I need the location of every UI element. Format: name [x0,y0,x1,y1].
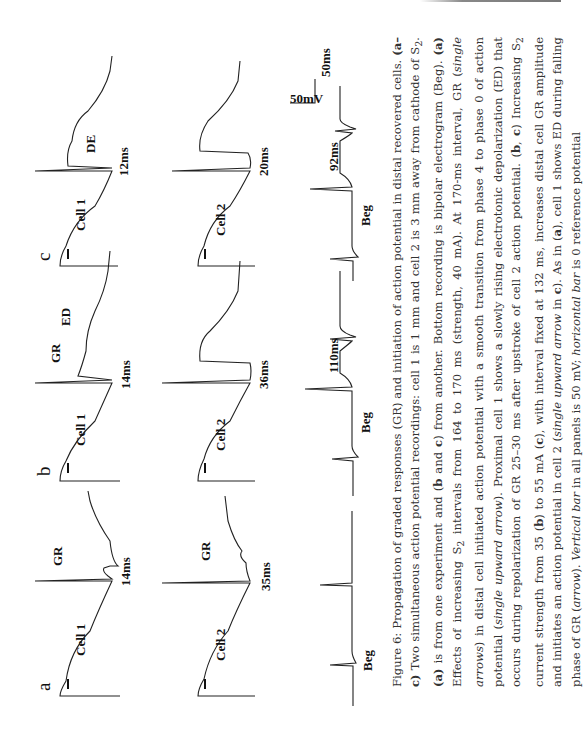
caption-text: and [431,447,445,479]
panel-b-beg-trace [305,271,358,496]
caption-ref: c [431,440,445,447]
panel-c-beg-label: Beg [358,205,373,226]
caption-text: ). [569,561,583,573]
panel-a-label: a [33,682,54,691]
panel-a-beg-trace [320,511,356,706]
caption-ref: a [550,229,564,237]
caption-text: ) Increasing S [509,43,523,129]
panel-b-label: b [33,467,54,477]
panel-b-cell1-ed: ED [58,308,73,326]
caption-ref: b [509,145,523,153]
caption-ref: (a) [431,37,445,55]
caption-text: ) to 55 mA ( [532,445,546,519]
panel-a-cell1-trace [35,491,120,696]
panel-a-cell2-trace [162,496,255,696]
panel-a-cell2-label: Cell 2 [213,629,228,661]
panel-c-cell1-label: Cell 1 [73,199,88,231]
caption-text: , [509,136,523,145]
caption-text: Propagation of graded responses (GR) and… [390,56,404,633]
panel-b-cell2-label: Cell 2 [213,419,228,451]
panel-b-beg-label: Beg [358,412,373,433]
caption-emphasis: arrow [569,573,583,608]
figure-caption: Figure 6: Propagation of graded response… [388,37,585,687]
caption-ref: c [509,129,523,136]
panel-b-cell2-trace [162,261,255,481]
caption-text: Two simultaneous action potential record… [408,47,422,675]
caption-ref: (a) [431,669,445,687]
caption-subscript: 2 [414,41,425,47]
caption-prefix: Figure 6: [390,633,404,687]
panel-a-cell1-label: Cell 1 [73,624,88,656]
caption-ref: b [431,479,445,487]
caption-text: intervals from 164 to 170 ms (strength, … [450,72,464,540]
caption-emphasis: Vertical bar [569,492,583,561]
panel-b-cell2-interval: 36ms [256,360,271,389]
caption-emphasis: horizontal bar [569,273,583,356]
panel-b-beg-interval: 110ms [326,338,341,373]
caption-text: in [550,294,564,314]
caption-text: . [408,37,422,41]
figure-6-traces: a Cell 1 GR 14ms Cell 2 GR 35ms Beg b Ce… [0,0,380,751]
caption-ref: c [532,438,546,445]
scale-bar-horizontal-label: 50ms [318,48,333,77]
panel-b-cell1-label: Cell 1 [73,414,88,446]
panel-a-beg-label: Beg [360,650,375,671]
panel-b-cell1-interval: 14ms [118,360,133,389]
panel-c-cell1-trace [35,56,118,266]
caption-ref: b [532,519,546,527]
scale-bar-vertical-label: 50mV [290,91,324,106]
panel-c-cell2-interval: 20ms [256,147,271,176]
panel-c-cell2-label: Cell 2 [213,204,228,236]
caption-emphasis: single upward arrow [491,500,505,625]
figure-6: a Cell 1 GR 14ms Cell 2 GR 35ms Beg b Ce… [0,0,380,751]
caption-text: Effects of increasing S [450,547,464,687]
panel-a-cell1-gr: GR [50,546,65,566]
caption-text: ). As in ( [550,236,564,287]
panel-a-cell1-interval: 14ms [118,557,133,586]
panel-a-cell2-interval: 35ms [258,562,273,591]
panel-a-cell2-gr: GR [198,541,213,561]
panel-c-beg-trace [310,86,358,281]
panel-c-cell1-de: DE [83,135,98,153]
panel-c-beg-interval: 92ms [326,142,341,171]
caption-text: ) from another. Bottom recording is bipo… [431,55,445,439]
caption-emphasis: single upward arrow [550,314,564,437]
caption-text: is 0 reference potential [569,132,583,273]
caption-text: in all panels is 50 mV; [569,356,583,492]
caption-ref: c [550,287,564,294]
panel-b-cell1-gr: GR [48,343,63,363]
caption-subscript: 2 [455,541,466,547]
panel-c-cell1-interval: 12ms [116,147,131,176]
panel-c-label: c [33,253,54,261]
panel-b-cell1-trace [35,251,120,481]
caption-text: is from one experiment and ( [431,487,445,669]
caption-subscript: 2 [514,37,525,43]
caption-text: current strength from 35 ( [532,527,546,687]
